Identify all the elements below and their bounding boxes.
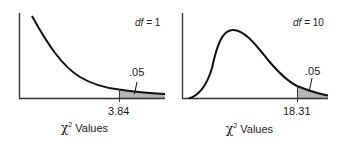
- x-axis-title-df10: χ2 Values: [226, 123, 273, 135]
- values-text: Values: [75, 122, 108, 134]
- critical-value-df1: 3.84: [108, 106, 129, 117]
- alpha-label-df1: .05: [129, 67, 144, 78]
- df-value: = 1: [146, 17, 160, 28]
- superscript-2: 2: [233, 122, 237, 129]
- df-label-df10: df = 10: [293, 18, 324, 28]
- df-value: = 10: [304, 17, 324, 28]
- critical-value-df10: 18.31: [283, 106, 311, 117]
- superscript-2: 2: [68, 121, 72, 128]
- alpha-label-df10: .05: [305, 66, 320, 77]
- df-symbol: df: [293, 17, 301, 28]
- x-axis-title-df1: χ2 Values: [61, 122, 108, 134]
- df-symbol: df: [135, 17, 143, 28]
- df-label-df1: df = 1: [135, 18, 160, 28]
- values-text: Values: [240, 123, 273, 135]
